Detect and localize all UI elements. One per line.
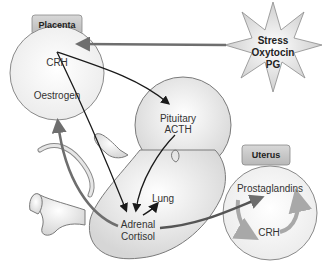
acth-label: ACTH (153, 124, 203, 135)
placenta-oestrogen-label: Oestrogen (32, 90, 82, 101)
cortisol-label: Cortisol (118, 231, 158, 242)
lung-label: Lung (148, 193, 178, 204)
placenta-circle (10, 26, 104, 120)
pituitary-label: Pituitary (153, 113, 203, 124)
adrenal-label: Adrenal (118, 219, 158, 230)
uterus-title: Uterus (242, 148, 290, 162)
stimulus-pg: PG (248, 59, 298, 70)
placenta-crh-label: CRH (40, 57, 74, 68)
uterus-crh-label: CRH (254, 227, 284, 238)
stimulus-oxytocin: Oxytocin (248, 47, 298, 58)
stimulus-stress: Stress (248, 35, 298, 46)
arrow-stimulus-to-crh (80, 44, 226, 45)
uterus-prostaglandins-label: Prostaglandins (235, 183, 305, 194)
uterus-group (223, 145, 317, 260)
placenta-title: Placenta (32, 18, 82, 32)
